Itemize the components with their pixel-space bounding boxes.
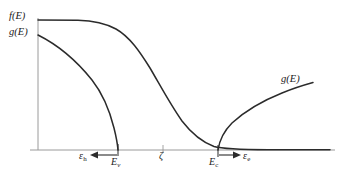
epsilon-e-arrow-head [233,152,241,159]
axis-label-epsilon-e: εe [243,151,250,163]
curve-g-of-E-valence [38,35,118,150]
axis-label-E-v: Ev [111,157,120,169]
figure-canvas [0,0,342,181]
E-c-subscript: c [215,161,218,169]
curve-label-g-of-E-right: g(E) [281,74,300,85]
curve-g-of-E-conduction [218,83,313,151]
energy-band-diagram-figure: f(E) g(E) g(E) εh Ev ζ Ec εe [0,0,342,181]
epsilon-e-subscript: e [247,155,250,163]
epsilon-h-arrow-head [90,152,98,159]
zeta-symbol: ζ [159,150,163,161]
curve-label-f-of-E: f(E) [9,11,25,22]
curves-group [38,20,330,150]
epsilon-h-subscript: h [83,155,87,163]
axis-label-epsilon-h: εh [79,151,87,163]
E-v-subscript: v [117,161,120,169]
curve-f-of-E [38,20,330,150]
curve-label-g-of-E-left: g(E) [9,27,28,38]
epsilon-e-arrow [219,152,241,159]
axis-label-zeta: ζ [159,151,163,161]
axis-label-E-c: Ec [209,157,218,169]
